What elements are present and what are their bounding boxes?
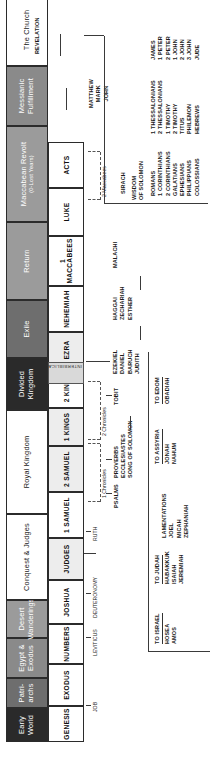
label-revelation: REVELATION — [34, 17, 41, 54]
book-label: NEHEMIAH — [63, 290, 70, 328]
label-tobit: TOBIT — [113, 388, 120, 405]
label-sirach: SIRACH — [120, 172, 127, 194]
period-exile[interactable]: Exile — [6, 300, 48, 358]
book-label: JUDGES — [63, 545, 70, 574]
book-exodus[interactable]: EXODUS — [48, 664, 84, 706]
period-label: Return — [23, 249, 32, 272]
period-label: Desert Wanderings — [18, 598, 35, 639]
prophet-group-title: TO ASSYRIA — [154, 429, 163, 464]
stem-job — [86, 705, 91, 706]
stem-tobit — [106, 395, 112, 396]
book-1-maccabees[interactable]: 1 MACCABEES — [48, 236, 84, 286]
epistle-group-pastoral: 1 THESSALONIANS 2 THESSALONIANS 1 TIMOTH… — [150, 80, 201, 134]
book-acts[interactable]: ACTS — [48, 142, 84, 188]
book-label: 2 SAMUEL — [63, 451, 70, 487]
period-row: Early World Patri- archs Egypt & Exodus … — [6, 0, 48, 742]
book-label: EZRA — [63, 340, 70, 359]
label-malachi: MALACHI — [112, 242, 119, 268]
book-label: EXODUS — [63, 670, 70, 700]
period-patriarchs[interactable]: Patri- archs — [6, 678, 48, 708]
connector-exile-prophets — [140, 326, 141, 340]
book-numbers[interactable]: NUMBERS — [48, 624, 84, 664]
book-1-kings[interactable]: 1 KINGS — [48, 408, 84, 446]
period-egypt-exodus[interactable]: Egypt & Exodus — [6, 638, 48, 678]
period-early-world[interactable]: Early World — [6, 708, 48, 742]
stem-psalms — [106, 493, 112, 494]
book-label: 1 MACCABEES — [59, 238, 73, 284]
epistle-group-books: 1 THESSALONIANS 2 THESSALONIANS 1 TIMOTH… — [150, 80, 200, 134]
prophet-group-title: TO EDOM — [154, 377, 163, 404]
period-conquest-judges[interactable]: Conquest & Judges — [6, 514, 48, 600]
book-genesis[interactable]: GENESIS — [48, 706, 84, 742]
period-maccabean-revolt[interactable]: Maccabean Revolt (0-Lost Years) — [6, 126, 48, 222]
book-label: GENESIS — [63, 708, 70, 739]
book-1-samuel[interactable]: 1 SAMUEL — [48, 492, 84, 538]
book-2-samuel[interactable]: 2 SAMUEL — [48, 446, 84, 492]
period-divided-kingdom[interactable]: Divided Kingdom — [6, 358, 48, 410]
epistle-group-pauline: ROMANS 1 CORINTHIANS 2 CORINTHIANS GALAT… — [150, 151, 201, 196]
connector-judges-down — [84, 553, 96, 554]
book-label: LUKE — [63, 202, 70, 221]
connector-kings-prophets — [130, 416, 131, 430]
book-judges[interactable]: JUDGES — [48, 538, 84, 580]
period-label: Divided Kingdom — [18, 360, 35, 408]
prophet-group-to-edom: TO EDOM OBADIAH — [154, 377, 171, 404]
book-nehemiah[interactable]: NEHEMIAH — [48, 286, 84, 332]
period-desert-wanderings[interactable]: Desert Wanderings — [6, 600, 48, 638]
bible-timeline-chart: Early World Patri- archs Egypt & Exodus … — [0, 0, 224, 760]
period-messianic-fulfillment[interactable]: Messianic Fulfillment — [6, 66, 48, 126]
prophet-group-title: TO JUDAH — [154, 555, 163, 584]
period-label: Maccabean Revolt — [19, 142, 28, 206]
prophet-group-books: JONAH NAHUM — [164, 443, 177, 464]
connector-acts-to-epistles — [84, 35, 104, 36]
connector-gospels — [66, 88, 67, 110]
stem-ruth — [86, 531, 91, 532]
stem-leviticus — [86, 637, 91, 638]
stem-exile-books — [86, 361, 110, 362]
prophet-group-to-judah: TO JUDAH HABAKKUK ISAIAH JEREMIAH — [154, 551, 186, 584]
label-ruth: RUTH — [92, 527, 98, 541]
label-leviticus: LEVITICUS — [92, 629, 98, 656]
book-row: GENESIS EXODUS NUMBERS JOSHUA JUDGES 1 S… — [48, 142, 84, 742]
stem-deuteronomy — [86, 593, 91, 594]
period-label: Royal Kingdom — [23, 436, 32, 489]
prophet-group-to-israel: TO ISRAEL HOSEA AMOS — [154, 613, 178, 644]
book-luke[interactable]: LUKE — [48, 188, 84, 236]
book-label: 1 KINGS — [63, 413, 70, 441]
connector-epistles-spine — [104, 203, 208, 204]
period-return[interactable]: Return — [6, 222, 48, 300]
interbiblical-strip[interactable]: INTERBIBLICAL — [48, 362, 84, 384]
epistle-group-books: JAMES 1 PETER 2 PETER 1 JOHN 2 JOHN 3 JO… — [150, 36, 200, 60]
period-label: Early World — [18, 710, 35, 740]
label-2-chronicles: 2 Chronicles — [101, 407, 107, 436]
stem-proverbs — [106, 459, 112, 460]
book-label: JOSHUA — [63, 587, 70, 616]
period-label: Messianic Fulfillment — [18, 68, 35, 124]
period-label: Exile — [23, 320, 32, 337]
label-gospels: MATTHEW MARK JOHN — [88, 79, 110, 108]
prophet-group-to-assyria: TO ASSYRIA JONAH NAHUM — [154, 429, 178, 464]
prophet-group-title: TO ISRAEL — [154, 613, 163, 644]
bracket-2-chronicles-left — [88, 439, 100, 440]
diagram-canvas: Early World Patri- archs Egypt & Exodus … — [0, 0, 224, 760]
bracket-2-maccabees-left — [88, 199, 100, 200]
connector-revelation — [60, 34, 61, 56]
period-sublabel: (0-Lost Years) — [28, 142, 34, 206]
period-royal-kingdom[interactable]: Royal Kingdom — [6, 410, 48, 514]
period-the-church[interactable]: The Church — [6, 0, 48, 66]
label-exile-books: EZEKIEL DANIEL BARUCH JUDITH — [112, 349, 141, 374]
label-wisdom-of-solomon: WISDOM OF SOLOMON — [131, 161, 146, 200]
interbiblical-label: INTERBIBLICAL — [46, 364, 82, 369]
epistle-group-general: JAMES 1 PETER 2 PETER 1 JOHN 2 JOHN 3 JO… — [150, 36, 201, 60]
prophet-group-books: LAMENTATIONS JOEL MICAH ZEPHANIAH — [161, 493, 189, 538]
prophet-group-books: HOSEA AMOS — [164, 624, 177, 644]
bracket-1-chronicles-left — [88, 501, 100, 502]
label-psalms: PSALMS — [113, 484, 120, 508]
connector-return-prophets — [140, 276, 141, 290]
bracket-2-chronicles-right — [88, 381, 100, 382]
period-label: The Church — [23, 10, 32, 51]
label-return-books: HAGGAI ZECHARIAH ESTHER — [112, 286, 134, 320]
prophet-group-books: HABAKKUK ISAIAH JEREMIAH — [164, 551, 185, 584]
book-label: NUMBERS — [63, 626, 70, 661]
book-joshua[interactable]: JOSHUA — [48, 580, 84, 624]
